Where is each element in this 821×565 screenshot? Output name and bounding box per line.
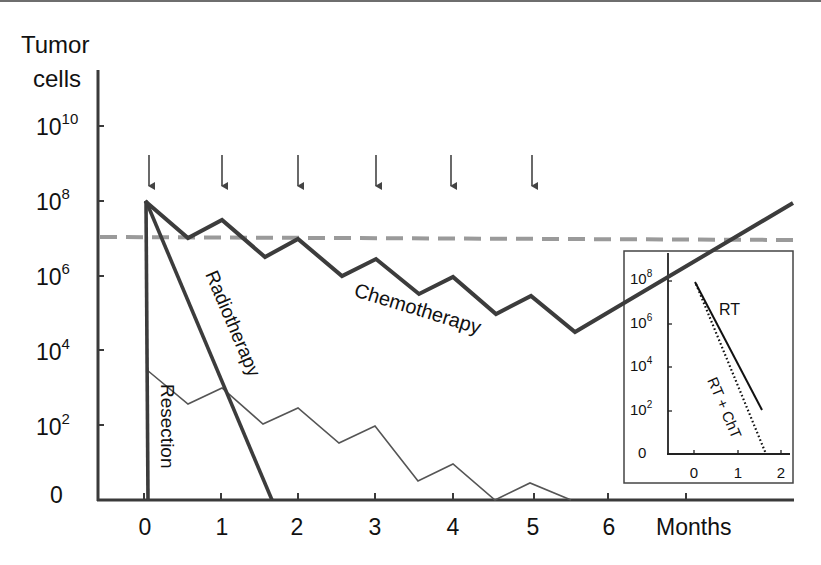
radiotherapy-label: Radiotherapy	[201, 267, 265, 380]
tumor-cells-chart: Tumor cells 1010 108 106 104 102 0 0 1 2…	[0, 0, 821, 565]
x-tick-labels: 0 1 2 3 4 5 6	[139, 514, 616, 540]
x-tick-4: 4	[447, 514, 460, 540]
inset-y-tick-0: 0	[638, 444, 646, 461]
treatment-arrows	[149, 155, 532, 186]
y-tick-labels: 1010 108 106 104 102 0	[36, 110, 78, 508]
x-tick-6: 6	[603, 514, 616, 540]
inset-x-tick-0: 0	[690, 464, 698, 481]
y-tick-1e4: 104	[36, 335, 70, 365]
x-tick-2: 2	[291, 514, 304, 540]
y-axis-label-line1: Tumor	[21, 31, 89, 58]
inset-x-tick-2: 2	[777, 464, 785, 481]
y-axis-label-line2: cells	[33, 65, 81, 92]
x-tick-5: 5	[527, 514, 540, 540]
resection-label: Resection	[157, 384, 178, 469]
inset-x-tick-1: 1	[734, 464, 742, 481]
residual-thin-line	[147, 370, 571, 500]
y-tick-1e8: 108	[36, 185, 70, 215]
inset-rt-label: RT	[719, 301, 740, 318]
y-tick-1e2: 102	[36, 410, 70, 440]
resection-line	[146, 201, 148, 500]
threshold-dashed-line	[100, 237, 794, 240]
x-tick-1: 1	[216, 514, 229, 540]
y-tick-1e6: 106	[36, 260, 70, 290]
x-tick-3: 3	[369, 514, 382, 540]
y-tick-1e10: 1010	[36, 110, 78, 140]
x-axis-label: Months	[656, 514, 731, 540]
x-tick-0: 0	[139, 514, 152, 540]
y-tick-0: 0	[50, 482, 63, 508]
